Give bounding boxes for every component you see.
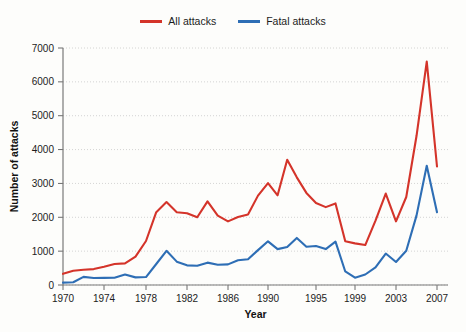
- y-axis-tick-label: 6000: [32, 76, 55, 87]
- y-axis-tick-label: 1000: [32, 246, 55, 257]
- x-axis-tick-label: 1978: [135, 293, 158, 304]
- x-axis-tick-label: 1982: [176, 293, 199, 304]
- x-axis-ticks-group: 1970197419781982198619901995199920032007: [52, 285, 449, 304]
- x-axis-tick-label: 1999: [344, 293, 367, 304]
- x-axis-tick-label: 1986: [217, 293, 240, 304]
- y-axis-tick-label: 2000: [32, 212, 55, 223]
- y-axis-title: Number of attacks: [8, 121, 20, 213]
- x-axis-title: Year: [244, 308, 266, 320]
- chart-container: All attacks Fatal attacks 01000200030004…: [0, 0, 466, 332]
- x-axis-tick-label: 2003: [385, 293, 408, 304]
- x-axis-tick-label: 1995: [305, 293, 328, 304]
- y-axis-tick-label: 0: [48, 280, 54, 291]
- y-axis-tick-label: 3000: [32, 178, 55, 189]
- y-axis-tick-label: 4000: [32, 144, 55, 155]
- chart-plot-area: 01000200030004000500060007000 1970197419…: [0, 0, 466, 332]
- y-axis-ticks-group: 01000200030004000500060007000: [32, 43, 63, 291]
- x-axis-tick-label: 1974: [93, 293, 116, 304]
- x-axis-tick-label: 1970: [52, 293, 75, 304]
- x-axis-tick-label: 2007: [426, 293, 449, 304]
- axis-lines-group: [63, 48, 448, 285]
- y-axis-tick-label: 7000: [32, 43, 55, 54]
- x-axis-tick-label: 1990: [257, 293, 280, 304]
- y-axis-tick-label: 5000: [32, 110, 55, 121]
- data-series-group: [63, 62, 437, 283]
- gridlines-group: [63, 48, 448, 285]
- series-line-all-attacks: [63, 62, 437, 274]
